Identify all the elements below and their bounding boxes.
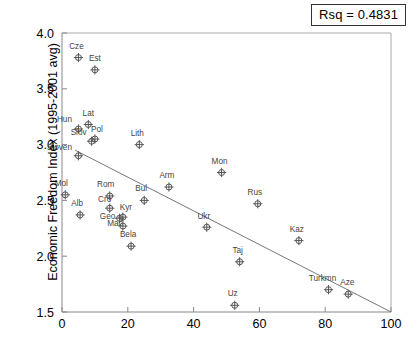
plot-canvas: 1.52.02.53.03.54.0020406080100 CzeEstLat… bbox=[0, 0, 414, 352]
y-tick-label: 1.5 bbox=[37, 306, 54, 320]
data-point-label: Alb bbox=[71, 199, 83, 208]
data-point-marker bbox=[324, 285, 333, 294]
data-point-label: Aze bbox=[340, 278, 355, 287]
data-point-marker bbox=[217, 168, 226, 177]
data-point-marker bbox=[135, 140, 144, 149]
data-point-label: Kaz bbox=[290, 225, 304, 234]
data-point-marker bbox=[90, 65, 99, 74]
plot-border bbox=[62, 33, 391, 312]
x-tick-label: 40 bbox=[187, 317, 201, 331]
x-tick-label: 60 bbox=[252, 317, 266, 331]
data-point-label: Lith bbox=[131, 129, 145, 138]
data-point-label: Cro bbox=[98, 195, 112, 204]
plot-frame bbox=[62, 33, 391, 312]
data-point-label: Est bbox=[89, 54, 102, 63]
data-point-label: Pol bbox=[91, 125, 103, 134]
data-point-label: Bela bbox=[120, 230, 137, 239]
data-point-label: Turkmn bbox=[309, 274, 337, 283]
scatter-plot-figure: Rsq = 0.4831 Economic Freedom Index (199… bbox=[0, 0, 414, 352]
data-point-marker bbox=[75, 210, 84, 219]
data-point-marker bbox=[344, 290, 353, 299]
x-tick-label: 100 bbox=[381, 317, 402, 331]
data-point-marker bbox=[74, 151, 83, 160]
data-point-marker bbox=[164, 182, 173, 191]
data-point-marker bbox=[74, 53, 83, 62]
data-point-label: Rus bbox=[247, 188, 262, 197]
plot-axes bbox=[62, 33, 391, 312]
data-point-label: Bul bbox=[135, 184, 147, 193]
data-point-marker bbox=[294, 236, 303, 245]
data-point-label: Arm bbox=[159, 171, 174, 180]
data-point-label: Slov bbox=[71, 128, 88, 137]
data-point-marker bbox=[140, 196, 149, 205]
data-point-marker bbox=[235, 257, 244, 266]
rsq-label: Rsq = 0.4831 bbox=[319, 7, 398, 22]
data-point-marker bbox=[253, 199, 262, 208]
data-point-marker bbox=[230, 301, 239, 310]
x-tick-label: 0 bbox=[59, 317, 66, 331]
data-point-marker bbox=[126, 242, 135, 251]
data-point-label: Cze bbox=[69, 42, 84, 51]
data-point-label: Lat bbox=[83, 109, 95, 118]
x-tick-label: 20 bbox=[121, 317, 135, 331]
data-point-label: Uz bbox=[228, 289, 238, 298]
y-axis-title: Economic Freedom Index (1995-2001 avg) bbox=[46, 32, 60, 292]
data-point-label: Kyr bbox=[120, 203, 133, 212]
data-point-marker bbox=[202, 223, 211, 232]
x-tick-label: 80 bbox=[318, 317, 332, 331]
data-point-label: Mac bbox=[107, 219, 122, 228]
rsq-annotation-box: Rsq = 0.4831 bbox=[311, 4, 406, 26]
data-point-label: Rom bbox=[97, 180, 114, 189]
data-point-label: Ukr bbox=[197, 212, 210, 221]
data-point-label: Taj bbox=[232, 246, 243, 255]
data-point-label: Mon bbox=[212, 157, 228, 166]
